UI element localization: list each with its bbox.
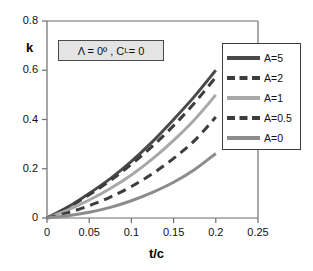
legend-item: A=5: [223, 48, 300, 68]
legend-label: A=0.5: [264, 112, 292, 124]
x-tick-label: 0.1: [111, 226, 151, 238]
x-tick-label: 0.15: [154, 226, 194, 238]
legend-swatch-icon: [227, 133, 260, 143]
x-tick-label: 0.05: [69, 226, 109, 238]
legend-swatch-icon: [227, 53, 260, 63]
y-tick-label: 0: [4, 211, 38, 223]
legend-swatch-icon: [227, 73, 260, 83]
parameter-annotation: Λ = 0º , CL = 0: [58, 40, 164, 61]
x-tick-label: 0: [27, 226, 67, 238]
legend-item: A=1: [223, 88, 300, 108]
legend-label: A=2: [264, 72, 283, 84]
x-tick-label: 0.2: [196, 226, 236, 238]
legend-item: A=2: [223, 68, 300, 88]
x-tick-label: 0.25: [238, 226, 278, 238]
annotation-lambda: Λ = 0º , C: [78, 45, 125, 57]
y-tick-label: 0.8: [4, 14, 38, 26]
y-axis-label: k: [26, 40, 33, 55]
y-tick-label: 0.4: [4, 113, 38, 125]
legend: A=5A=2A=1A=0.5A=0: [222, 43, 301, 150]
annotation-tail: = 0: [129, 45, 145, 57]
data-series-group: [47, 70, 216, 218]
data-curve: [47, 77, 216, 218]
data-curve: [47, 70, 216, 218]
legend-label: A=0: [264, 132, 283, 144]
y-tick-label: 0.2: [4, 162, 38, 174]
legend-item: A=0: [223, 128, 300, 148]
legend-swatch-icon: [227, 113, 260, 123]
chart-figure: k t/c 00.20.40.60.8 00.050.10.150.20.25 …: [0, 0, 313, 271]
legend-label: A=5: [264, 52, 283, 64]
y-tick-label: 0.6: [4, 63, 38, 75]
x-axis-label: t/c: [0, 246, 313, 261]
legend-item: A=0.5: [223, 108, 300, 128]
legend-swatch-icon: [227, 93, 260, 103]
legend-label: A=1: [264, 92, 283, 104]
